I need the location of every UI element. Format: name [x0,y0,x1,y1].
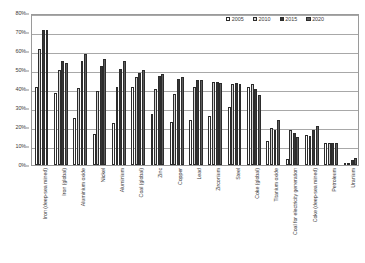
bar [161,74,164,165]
bar [286,159,289,165]
bar-group [206,15,225,165]
bar [316,126,319,165]
bar-group [225,15,244,165]
x-axis-category-label: Coal for electricity generation [293,168,298,235]
legend-item-2020[interactable]: 2020 [306,16,324,22]
bar [189,120,192,165]
x-axis-category-label: Iron (global) [62,168,67,196]
y-axis-tick-label: 50% [16,68,27,73]
legend-label: 2005 [232,16,244,22]
bar [135,77,138,165]
bar-group [71,15,90,165]
y-axis-tick-mark [26,109,29,110]
bar [170,122,173,165]
bar [251,84,254,165]
bar [231,84,234,165]
x-axis-tick-mark [283,165,284,166]
bar [296,137,299,165]
bar [138,73,141,165]
bar [235,83,238,165]
bar [181,77,184,165]
bar [293,133,296,165]
plot-area [31,14,359,166]
bar [42,30,45,165]
bar-group [109,15,128,165]
y-axis-tick-label: 40% [16,87,27,92]
bar [200,80,203,165]
x-axis-category-label: Lead [197,168,202,180]
bar [347,163,350,165]
x-axis-category-label: Coke (global) [255,168,260,199]
bar [77,88,80,165]
y-axis-tick-label: 0% [18,163,26,168]
bar [116,87,119,165]
bar-group [186,15,205,165]
x-axis-tick-mark [225,165,226,166]
legend-label: 2015 [285,16,297,22]
bar [258,95,261,165]
bar [254,89,257,165]
x-axis-tick-mark [264,165,265,166]
bar [266,141,269,165]
y-axis-tick-mark [26,71,29,72]
bar [193,87,196,165]
x-axis-category-label: Aluminium [120,168,125,192]
legend-swatch-icon [226,17,230,21]
x-axis-category-labels: Iron (deep-sea mined)Iron (global)Alumin… [31,168,359,263]
bar [154,89,157,165]
chart-legend: 2005201020152020 [226,16,324,22]
bar [81,61,84,165]
bar [309,136,312,165]
legend-item-2005[interactable]: 2005 [226,16,244,22]
legend-swatch-icon [306,17,310,21]
y-axis: 0%10%20%30%40%50%60%70%80% [0,14,29,166]
bar [35,87,38,165]
y-axis-tick-label: 10% [16,144,27,149]
x-axis-category-label: Copper [178,168,183,185]
legend-item-2015[interactable]: 2015 [280,16,298,22]
bar [119,69,122,165]
bar [196,80,199,165]
bar [274,130,277,165]
bar-group [148,15,167,165]
x-axis-category-label: Titanium oxide [274,168,279,202]
bar [93,134,96,165]
y-axis-tick-label: 60% [16,49,27,54]
bar [324,143,327,165]
bar [351,160,354,165]
bar [328,143,331,165]
legend-swatch-icon [253,17,257,21]
x-axis-tick-mark [167,165,168,166]
bar-chart: 0%10%20%30%40%50%60%70%80% 2005201020152… [0,0,365,263]
y-axis-tick-mark [26,147,29,148]
legend-label: 2010 [259,16,271,22]
bar-group [264,15,283,165]
bar [58,70,61,165]
bar-group [128,15,147,165]
bar-group [32,15,51,165]
bar [100,66,103,165]
legend-item-2010[interactable]: 2010 [253,16,271,22]
bar-group [51,15,70,165]
bar [247,87,250,165]
y-axis-tick-label: 70% [16,30,27,35]
bar [208,116,211,165]
x-axis-tick-mark [90,165,91,166]
x-axis-tick-mark [51,165,52,166]
x-axis-category-label: Nickel [101,168,106,182]
bar-group [167,15,186,165]
legend-label: 2020 [312,16,324,22]
bar-group [283,15,302,165]
bar [331,143,334,165]
x-axis-category-label: Iron (deep-sea mined) [43,168,48,219]
bar [177,79,180,165]
bar [142,70,145,165]
bar [219,83,222,165]
bar [151,114,154,165]
x-axis-category-label: Uranium [351,168,356,188]
y-axis-tick-label: 30% [16,106,27,111]
x-axis-category-label: Zirconium [216,168,221,191]
x-axis-category-label: Aluminium oxide [81,168,86,206]
bar [112,123,115,165]
bar-group [90,15,109,165]
